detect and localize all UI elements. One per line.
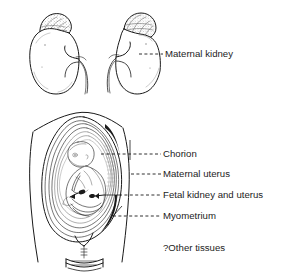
right-kidney-group xyxy=(107,11,160,94)
uterus-section-group xyxy=(30,112,130,271)
label-texts: Maternal kidney Chorion Maternal uterus … xyxy=(163,48,263,253)
label-fetal-kidney-and-uterus: Fetal kidney and uterus xyxy=(163,189,263,200)
right-kidney-body xyxy=(107,29,160,94)
anatomical-figure: Maternal kidney Chorion Maternal uterus … xyxy=(0,0,282,279)
left-kidney-body xyxy=(30,29,88,94)
label-chorion: Chorion xyxy=(163,148,197,159)
vaginal-canal xyxy=(66,259,103,271)
figure-canvas: Maternal kidney Chorion Maternal uterus … xyxy=(0,0,282,279)
label-other-tissues: ?Other tissues xyxy=(163,242,225,253)
label-maternal-uterus: Maternal uterus xyxy=(163,168,230,179)
label-maternal-kidney: Maternal kidney xyxy=(165,48,233,59)
left-kidney-group xyxy=(30,12,88,94)
label-myometrium: Myometrium xyxy=(163,210,216,221)
